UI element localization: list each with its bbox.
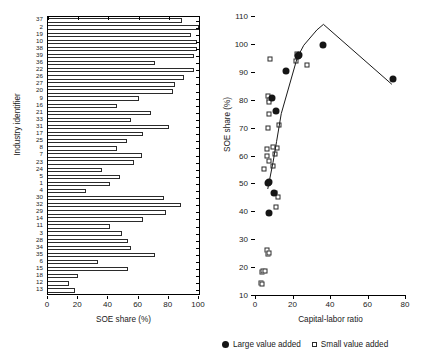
scatter-point-large-value-added	[272, 107, 279, 114]
bar-chart-right-tick	[196, 70, 199, 71]
scatter-point-small-value-added	[266, 111, 271, 116]
bar-row	[48, 75, 199, 79]
bar	[48, 267, 128, 271]
bar	[48, 203, 181, 207]
bar-chart-x-tick	[168, 296, 169, 299]
bar-chart-y-tick-label: 13	[36, 286, 43, 292]
scatter-x-tick	[330, 295, 331, 299]
bar	[48, 153, 142, 157]
scatter-y-tick-label: 20	[239, 263, 248, 272]
bar-row	[48, 160, 199, 164]
bar-chart-top-tick	[169, 17, 170, 20]
bar	[48, 168, 102, 172]
scatter-x-tick	[255, 295, 256, 299]
bar	[48, 253, 155, 257]
bar	[48, 132, 143, 136]
bar-chart-x-tick-label: 40	[103, 300, 112, 309]
scatter-point-small-value-added	[271, 163, 276, 168]
bar	[48, 111, 151, 115]
bar-row	[48, 189, 199, 193]
bar	[48, 82, 175, 86]
bar-chart-right-tick	[196, 77, 199, 78]
bar-chart-right-tick	[196, 269, 199, 270]
bar	[48, 96, 139, 100]
bar	[48, 47, 197, 51]
bar-row	[48, 246, 199, 250]
scatter-point-small-value-added	[274, 204, 279, 209]
bar-chart-right-tick	[196, 35, 199, 36]
bar-chart-right-tick	[196, 227, 199, 228]
bar-chart-right-tick	[196, 148, 199, 149]
bar-row	[48, 125, 199, 129]
scatter-x-tick-label: 40	[326, 300, 335, 309]
bar-row	[48, 54, 199, 58]
bar-chart-top-tick	[139, 17, 140, 20]
bar-chart-top-tick	[108, 17, 109, 20]
open-square-icon	[312, 342, 317, 347]
legend-item: Large value added	[222, 340, 301, 349]
bar-row	[48, 267, 199, 271]
bar-row	[48, 239, 199, 243]
bar-chart-panel: Industry identifier 37219103839362226272…	[0, 0, 212, 361]
bar-row	[48, 118, 199, 122]
bar-chart-y-tick-label: 5	[40, 173, 43, 179]
bar-row	[48, 203, 199, 207]
scatter-point-small-value-added	[272, 152, 277, 157]
bar-row	[48, 182, 199, 186]
bar-chart-right-tick	[196, 262, 199, 263]
bar-chart-right-tick	[196, 191, 199, 192]
bar-chart-right-tick	[196, 99, 199, 100]
bar-chart-right-tick	[196, 113, 199, 114]
bar-row	[48, 25, 199, 29]
bar-row	[48, 168, 199, 172]
bar-chart-x-axis-title: SOE share (%)	[47, 315, 200, 324]
bar-row	[48, 217, 199, 221]
bar-chart-right-tick	[196, 156, 199, 157]
scatter-y-tick-label: 90	[239, 67, 248, 76]
bar-chart-right-tick	[196, 198, 199, 199]
scatter-x-tick	[293, 295, 294, 299]
bar-chart-right-tick	[196, 56, 199, 57]
bar-chart-right-tick	[196, 134, 199, 135]
bar-chart-right-tick	[196, 170, 199, 171]
bar-row	[48, 139, 199, 143]
scatter-y-tick-label: 80	[239, 95, 248, 104]
bar	[48, 25, 199, 29]
bar-row	[48, 196, 199, 200]
scatter-y-tick-label: 30	[239, 235, 248, 244]
bar	[48, 288, 75, 292]
bar-chart-right-tick	[196, 28, 199, 29]
bar	[48, 281, 69, 285]
legend-item: Small value added	[312, 340, 388, 349]
bar	[48, 61, 155, 65]
bar-chart-y-tick-labels: 3721910383936222627209162133311725872324…	[18, 16, 45, 295]
bar-chart-y-tick-label: 23	[36, 159, 43, 165]
bar	[48, 18, 182, 22]
figure-container: Industry identifier 37219103839362226272…	[0, 0, 424, 361]
scatter-y-tick-label: 50	[239, 179, 248, 188]
bar-row	[48, 260, 199, 264]
scatter-x-tick-label: 80	[401, 300, 410, 309]
scatter-point-large-value-added	[389, 75, 396, 82]
bar-chart-right-tick	[196, 248, 199, 249]
bar-chart-x-tick-label: 80	[163, 300, 172, 309]
scatter-point-small-value-added	[277, 122, 282, 127]
bar-chart-y-tick-label: 3	[40, 230, 43, 236]
scatter-plot-area	[255, 16, 405, 295]
scatter-x-axis-line	[255, 295, 406, 296]
legend-label: Small value added	[321, 340, 388, 349]
bar	[48, 89, 173, 93]
scatter-y-tick-label: 110	[235, 12, 248, 21]
bar-chart-top-tick	[199, 17, 200, 20]
scatter-point-large-value-added	[319, 42, 326, 49]
bar-row	[48, 153, 199, 157]
bar-chart-right-tick	[196, 92, 199, 93]
bar-chart-x-tick	[107, 296, 108, 299]
scatter-point-large-value-added	[266, 209, 273, 216]
scatter-chart-panel: SOE share (%) Capital-labor ratio 102030…	[212, 0, 424, 361]
bar-chart-right-tick	[196, 184, 199, 185]
bar	[48, 104, 117, 108]
bar-chart-right-tick	[196, 21, 199, 22]
bar-row	[48, 146, 199, 150]
bar	[48, 246, 131, 250]
